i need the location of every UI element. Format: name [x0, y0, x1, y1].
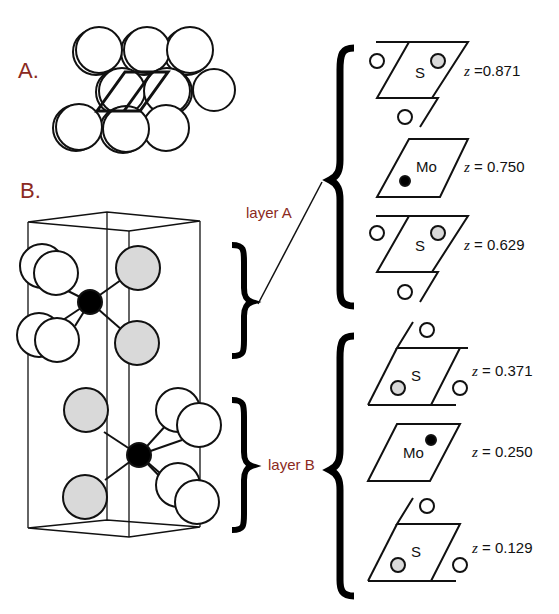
plane-atom-label: Mo — [416, 158, 437, 175]
plane-s-0871 — [370, 42, 468, 127]
plane-s-0129 — [368, 498, 467, 581]
z-coordinate-label: z =0.871 — [464, 62, 520, 80]
z-coordinate-label: z = 0.371 — [472, 362, 532, 380]
z-coordinate-label: z = 0.129 — [472, 539, 532, 557]
planes-b-brace — [330, 336, 354, 596]
upper-mos6-unit — [17, 244, 160, 365]
panel-a-label: A. — [18, 58, 39, 84]
layer-a-brace — [232, 245, 252, 356]
planes-a-brace — [330, 48, 354, 306]
z-coordinate-label: z = 0.250 — [472, 443, 532, 461]
layer-a-connector — [258, 182, 322, 304]
plane-atom-label: S — [411, 367, 421, 384]
plane-atom-label: S — [415, 64, 425, 81]
layer-a-label: layer A — [246, 204, 292, 221]
structure-diagram — [0, 0, 559, 614]
plane-atom-label: S — [415, 237, 425, 254]
layer-b-brace — [232, 400, 252, 530]
panel-a-packing — [53, 27, 235, 153]
plane-atom-label: S — [411, 543, 421, 560]
plane-s-0629 — [370, 216, 468, 302]
z-coordinate-label: z = 0.750 — [464, 158, 524, 176]
lower-mos6-unit — [63, 388, 221, 524]
layer-b-label: layer B — [268, 456, 315, 473]
panel-b-label: B. — [20, 178, 41, 204]
z-coordinate-label: z = 0.629 — [464, 236, 524, 254]
plane-atom-label: Mo — [403, 444, 424, 461]
plane-s-0371 — [368, 322, 468, 405]
